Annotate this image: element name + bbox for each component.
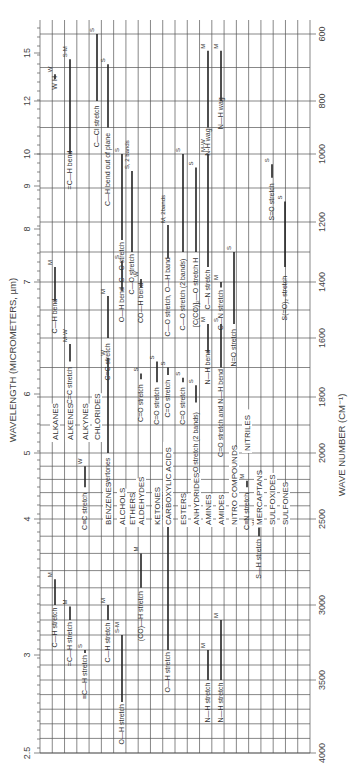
band-label: ≡C—H stretch <box>81 655 88 699</box>
compound-class-label: SULFONES <box>281 482 290 525</box>
wavelength-axis-title: WAVELENGTH (MICROMETERS, µm) <box>7 278 18 442</box>
band-label: C=O stretch and N—H bend <box>217 369 224 457</box>
wavenumber-tick-label: 3500 <box>317 670 327 690</box>
compound-class-label: BENZENES <box>104 482 113 525</box>
compound-class-label: AMINES <box>204 494 213 525</box>
compound-class-label: NITRO COMPOUNDS <box>230 445 239 525</box>
band-label: O—H stretch <box>118 704 125 745</box>
intensity-label: M <box>100 289 106 294</box>
intensity-label: M <box>47 572 53 577</box>
wavelength-tick-label: 15 <box>22 48 32 58</box>
band-label: C=O stretch <box>137 384 144 422</box>
intensity-label: S-M <box>114 622 120 633</box>
intensity-label: S <box>100 58 106 62</box>
wavelength-tick-label: 7 <box>22 279 32 284</box>
intensity-label: M <box>200 317 206 322</box>
compound-class-label: CHLORIDES <box>93 393 102 440</box>
band-label: O—H stretch <box>164 652 171 693</box>
wavelength-tick-label: 2.5 <box>22 747 32 760</box>
wavelength-tick-label: 10 <box>22 149 32 159</box>
band-label: C—H bend <box>51 299 58 334</box>
intensity-label: M <box>100 598 106 603</box>
intensity-label: M, 2bands <box>160 195 166 223</box>
wavelength-tick-label: 6 <box>22 391 32 396</box>
intensity-label: S <box>77 644 83 648</box>
intensity-label: S <box>175 372 181 376</box>
wavenumber-tick-label: 800 <box>317 93 327 108</box>
compound-class-label: ALKANES <box>51 403 60 440</box>
band-label: O—H bend <box>118 287 125 322</box>
band-label: [C(CO)]₂—O stretch H <box>192 258 200 327</box>
wavelength-tick-label: 9 <box>22 183 32 188</box>
band-label: N=O stretch <box>230 329 237 367</box>
band-label: N-H wag <box>204 128 212 155</box>
band-label: N—H wag <box>217 97 225 129</box>
band-label: =C—H stretch <box>66 622 73 666</box>
compound-class-label: ANHYDRIDES <box>192 473 201 525</box>
compound-class-label: AMIDES <box>217 494 226 525</box>
intensity-label: S, 2 bands <box>124 140 130 169</box>
band-label: C—O stretch, O—H band <box>164 257 171 336</box>
intensity-label: M <box>213 613 219 618</box>
wavenumber-tick-label: 4000 <box>317 743 327 763</box>
intensity-label: S <box>89 28 95 32</box>
compound-class-label: ETHERS <box>128 493 137 525</box>
compound-class-label: CARBOXYLIC ACIDS <box>164 447 173 525</box>
band-label: C=O stretch (2 bands) <box>192 412 200 481</box>
intensity-label: W <box>133 271 139 277</box>
compound-class-label: MERCAPTANS <box>255 470 264 525</box>
band-label: C≡C stretch <box>81 493 88 530</box>
intensity-label: S <box>114 148 120 152</box>
band-bars <box>55 34 285 702</box>
band-label: C=O stretch <box>179 387 186 425</box>
band-label: C—O stretch <box>118 242 125 283</box>
compound-class-label: ALCHOLS <box>118 488 127 525</box>
intensity-label: S <box>264 158 270 162</box>
compound-class-label: ALKYNES <box>81 403 90 440</box>
band-label: N—H bend <box>204 350 211 385</box>
intensity-label: M <box>200 643 206 648</box>
intensity-label: S <box>277 196 283 200</box>
band-label: C≡N stretch <box>243 493 250 530</box>
wavenumber-tick-label: 1000 <box>317 144 327 164</box>
wavelength-tick-label: 3 <box>22 652 32 657</box>
band-label: (CO)—H stretch <box>137 591 145 641</box>
intensity-label: M <box>200 44 206 49</box>
band-label: N—H stretch <box>217 682 224 722</box>
wavelength-tick-label: 4 <box>22 516 32 521</box>
ir-correlation-chart: 2.53456789101215400035003000250020001800… <box>0 0 350 779</box>
band-label: C=O stretch <box>164 380 171 418</box>
band-label: S=O stretch <box>268 183 275 220</box>
wavenumber-tick-label: 1600 <box>317 328 327 348</box>
band-label: =C—H bend <box>66 151 73 190</box>
intensity-label: M <box>213 44 219 49</box>
band-label: C—H bend out of plane <box>104 133 112 206</box>
wavenumber-tick-label: 3000 <box>317 595 327 615</box>
intensity-label: S <box>133 367 139 371</box>
intensity-label: S <box>160 361 166 365</box>
intensity-label: M <box>62 600 68 605</box>
band-label: S(=O)₂ stretch <box>281 276 289 321</box>
band-label: C=O stretch <box>153 387 160 425</box>
band-label: C=C stretch <box>66 367 73 404</box>
band-label: C—N stretch <box>204 269 211 309</box>
wavenumber-axis-title: WAVE NUMBER (CM⁻¹) <box>336 394 347 497</box>
band-label: N—H stretch <box>204 682 211 722</box>
wavenumber-tick-label: 2500 <box>317 509 327 529</box>
wavenumber-tick-label: 1800 <box>317 387 327 407</box>
band-label: W H <box>51 76 58 90</box>
wavelength-tick-label: 8 <box>22 226 32 231</box>
band-label: S—H stretch <box>255 539 262 579</box>
wavenumber-tick-label: 1200 <box>317 212 327 232</box>
intensity-label: S <box>149 356 155 360</box>
band-label: C—O stretch (2 bands) <box>179 259 187 331</box>
wavenumber-tick-label: 1400 <box>317 272 327 292</box>
intensity-label: S <box>188 379 194 383</box>
intensity-label: S <box>226 246 232 250</box>
band-label: C—H stretch <box>104 622 111 662</box>
wavenumber-tick-label: 600 <box>317 26 327 41</box>
compound-class-label: ESTERS <box>179 493 188 525</box>
intensity-label: S <box>175 148 181 152</box>
intensity-label: W <box>100 350 106 356</box>
band-label: C—Cl stretch <box>93 105 100 147</box>
